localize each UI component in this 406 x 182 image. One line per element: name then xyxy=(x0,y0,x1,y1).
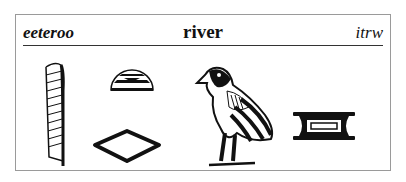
card-header: eeteroo river itrw xyxy=(23,15,383,46)
quail-chick-glyph-icon xyxy=(191,63,281,171)
placenta-glyph-icon xyxy=(109,68,155,94)
reed-leaf-glyph-icon xyxy=(41,61,67,171)
mouth-glyph-icon xyxy=(91,127,163,165)
meaning-label: river xyxy=(23,21,383,43)
transliteration-label: itrw xyxy=(356,23,383,43)
hieroglyph-card: eeteroo river itrw xyxy=(15,14,391,171)
canal-glyph-icon xyxy=(291,110,361,142)
